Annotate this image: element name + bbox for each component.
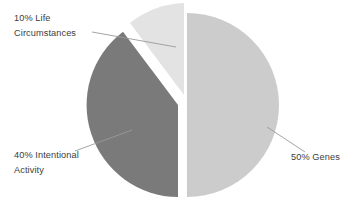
pie-chart-figure: 10% Life Circumstances 40% Intentional A… — [0, 0, 361, 210]
pie-label-life-circumstances-line2: Circumstances — [14, 26, 76, 41]
pie-label-intentional-activity-line1: 40% Intentional — [14, 148, 79, 163]
pie-label-life-circumstances-line1: 10% Life — [14, 11, 76, 26]
pie-label-genes-line1: 50% Genes — [291, 150, 340, 165]
pie-label-life-circumstances: 10% Life Circumstances — [14, 11, 76, 41]
pie-label-intentional-activity: 40% Intentional Activity — [14, 148, 79, 178]
leader-line-genes — [267, 127, 305, 152]
pie-label-intentional-activity-line2: Activity — [14, 163, 79, 178]
pie-slice-genes[interactable] — [187, 13, 279, 197]
pie-label-genes: 50% Genes — [291, 150, 340, 165]
